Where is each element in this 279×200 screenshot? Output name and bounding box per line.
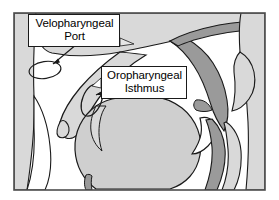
callout-velopharyngeal-port: Velopharyngeal Port [28,14,120,47]
diagram-figure: Velopharyngeal Port Oropharyngeal Isthmu… [0,0,279,200]
callout-velopharyngeal-port-line2: Port [32,30,117,43]
callout-oropharyngeal-isthmus-line2: Isthmus [105,82,184,95]
tongue-body [75,95,201,189]
callout-velopharyngeal-port-line1: Velopharyngeal [32,17,117,30]
tongue-tip-marker [85,174,93,190]
callout-oropharyngeal-isthmus-line1: Oropharyngeal [105,69,184,82]
callout-oropharyngeal-isthmus: Oropharyngeal Isthmus [101,66,187,99]
